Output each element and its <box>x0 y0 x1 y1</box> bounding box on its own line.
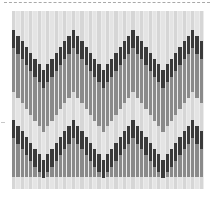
dashed-rule <box>4 2 210 3</box>
column-gap <box>203 11 204 189</box>
stitch-column <box>200 11 204 189</box>
bargello-pattern-swatch <box>12 11 204 189</box>
edge-tick-mark <box>1 122 5 123</box>
